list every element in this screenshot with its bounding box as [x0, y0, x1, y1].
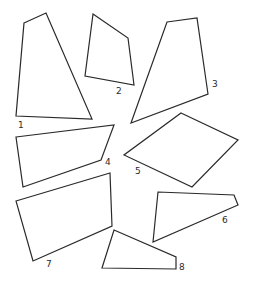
shape-label-1: 1 — [18, 120, 24, 130]
shape-8: 8 — [102, 230, 185, 272]
shape-2: 2 — [85, 14, 134, 96]
shape-label-6: 6 — [222, 215, 228, 225]
shape-4: 4 — [16, 125, 114, 187]
quadrilateral-2 — [85, 14, 134, 85]
shape-label-5: 5 — [135, 166, 141, 176]
shape-label-4: 4 — [105, 157, 111, 167]
quadrilateral-3 — [131, 18, 208, 123]
quadrilateral-5 — [124, 113, 238, 187]
shape-label-8: 8 — [179, 262, 185, 272]
quadrilateral-4 — [16, 125, 114, 187]
shape-6: 6 — [153, 192, 238, 242]
shape-label-7: 7 — [46, 259, 52, 269]
quadrilateral-1 — [16, 13, 92, 119]
shape-7: 7 — [16, 173, 112, 269]
shape-label-3: 3 — [212, 79, 218, 89]
quadrilateral-7 — [16, 173, 112, 261]
quadrilaterals-diagram: 1 2 3 4 5 6 7 8 — [0, 0, 253, 284]
shape-1: 1 — [16, 13, 92, 130]
shape-3: 3 — [131, 18, 218, 123]
shape-label-2: 2 — [116, 86, 122, 96]
shape-5: 5 — [124, 113, 238, 187]
quadrilateral-8 — [102, 230, 176, 269]
